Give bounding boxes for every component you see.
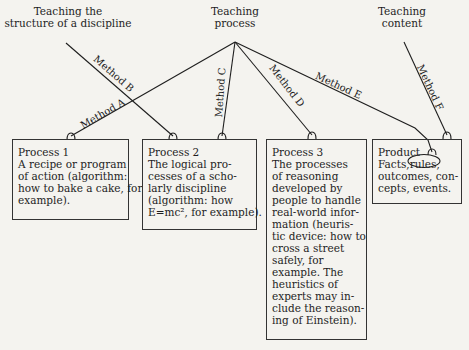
process-3-text-9: safely, for <box>272 254 361 266</box>
process-3-text-8: cross a street <box>272 242 361 254</box>
source-process-line-2: process <box>205 17 265 29</box>
product-title: Product <box>378 146 456 158</box>
product-facts-line: Facts,rules, <box>378 158 456 170</box>
source-content-line-2: content <box>372 17 432 29</box>
process-3-text-13: clude the reason- <box>272 302 361 314</box>
product-box: Product Facts,rules, outcomes, con- cept… <box>372 139 462 204</box>
process-3-text-12: experts may in- <box>272 290 361 302</box>
source-teaching-process: Teaching process <box>205 5 265 29</box>
process-1-title: Process 1 <box>18 146 123 158</box>
process-3-text-14: ing of Einstein). <box>272 314 361 326</box>
process-3-text-7: tic device: how to <box>272 230 361 242</box>
source-structure-line-2: structure of a discipline <box>4 17 132 29</box>
process-1-text-2: of action (algorithm: <box>18 170 123 182</box>
process-3-text-4: people to handle <box>272 194 361 206</box>
process-3-text-10: example. The <box>272 266 361 278</box>
source-content-line-1: Teaching <box>372 5 432 17</box>
process-3-box: Process 3 The processes of reasoning dev… <box>266 139 367 340</box>
product-text-1: outcomes, con- <box>378 170 456 182</box>
process-3-text-3: developed by <box>272 182 361 194</box>
process-2-text-4: (algorithm: how <box>148 194 251 206</box>
process-3-text-11: heuristics of <box>272 278 361 290</box>
product-facts: Facts, <box>378 158 410 170</box>
process-2-text-3: larly discipline <box>148 182 251 194</box>
process-3-text-2: of reasoning <box>272 170 361 182</box>
source-structure-line-1: Teaching the <box>4 5 132 17</box>
source-process-line-1: Teaching <box>205 5 265 17</box>
process-1-text-1: A recipe or program <box>18 158 123 170</box>
source-structure-of-discipline: Teaching the structure of a discipline <box>4 5 132 29</box>
process-2-text-1: The logical pro- <box>148 158 251 170</box>
process-2-text-2: cesses of a scho- <box>148 170 251 182</box>
process-1-box: Process 1 A recipe or program of action … <box>12 139 129 220</box>
process-3-text-5: real-world infor- <box>272 206 361 218</box>
process-1-text-3: how to bake a cake, for <box>18 182 123 194</box>
product-text-2: cepts, events. <box>378 182 456 194</box>
process-1-text-4: example). <box>18 194 123 206</box>
process-2-text-5: E=mc², for example). <box>148 206 251 218</box>
process-2-title: Process 2 <box>148 146 251 158</box>
product-rules-circled: rules, <box>410 158 440 170</box>
process-2-box: Process 2 The logical pro- cesses of a s… <box>142 139 257 230</box>
process-3-text-1: The processes <box>272 158 361 170</box>
source-teaching-content: Teaching content <box>372 5 432 29</box>
process-3-text-6: mation (heuris- <box>272 218 361 230</box>
process-3-title: Process 3 <box>272 146 361 158</box>
